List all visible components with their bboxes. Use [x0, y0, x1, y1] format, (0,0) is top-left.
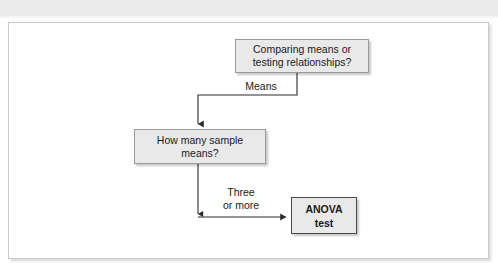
node-question-type[interactable]: Comparing means or testing relationships…: [235, 39, 369, 73]
figure-frame: Comparing means or testing relationships…: [8, 22, 489, 259]
edge-label-means: Means: [231, 80, 291, 93]
top-strip-text-fragment: statistical test: [112, 0, 175, 2]
node-anova-test[interactable]: ANOVA test: [291, 197, 357, 234]
node-sample-count-label: How many sample means?: [135, 134, 265, 160]
node-anova-test-label: ANOVA test: [292, 202, 356, 230]
top-strip-divider: [0, 16, 498, 18]
node-sample-count[interactable]: How many sample means?: [134, 129, 266, 164]
top-strip: statistical test: [0, 0, 498, 18]
node-question-type-label: Comparing means or testing relationships…: [236, 43, 368, 69]
edge-label-three-or-more: Three or more: [205, 186, 277, 212]
